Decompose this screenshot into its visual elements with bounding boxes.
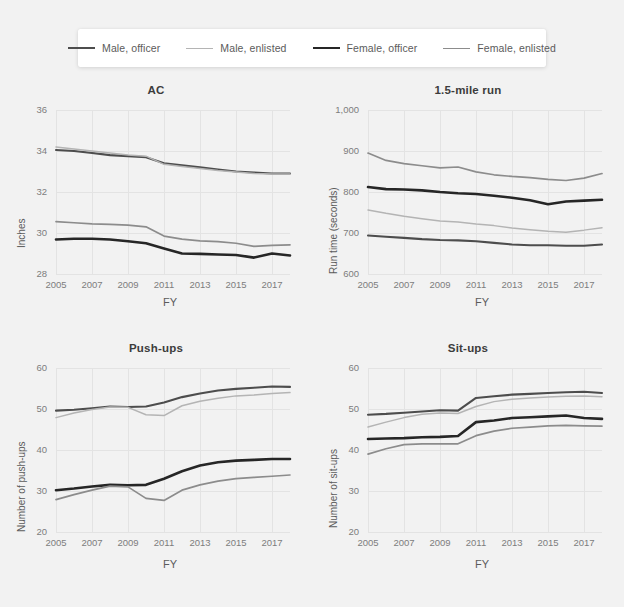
svg-text:50: 50 xyxy=(36,403,47,414)
svg-text:30: 30 xyxy=(348,485,359,496)
x-axis-label: FY xyxy=(326,296,624,308)
series-line xyxy=(56,150,290,174)
y-axis-label: Inches xyxy=(16,219,27,248)
legend-item-label: Male, officer xyxy=(102,42,160,54)
svg-text:2005: 2005 xyxy=(45,279,66,290)
chart-panel-pushups: Push-ups 2030405060200520072009201120132… xyxy=(0,336,312,600)
svg-text:32: 32 xyxy=(36,186,47,197)
series-line xyxy=(56,393,290,418)
svg-text:2013: 2013 xyxy=(501,537,522,548)
panel-title: 1.5-mile run xyxy=(312,84,624,96)
svg-text:2009: 2009 xyxy=(117,537,138,548)
x-axis-label: FY xyxy=(326,558,624,570)
legend-item-label: Male, enlisted xyxy=(220,42,286,54)
svg-text:2011: 2011 xyxy=(154,279,174,290)
svg-text:2005: 2005 xyxy=(357,279,378,290)
svg-text:2017: 2017 xyxy=(261,537,282,548)
svg-text:2007: 2007 xyxy=(393,537,414,548)
svg-text:20: 20 xyxy=(36,526,47,537)
series-line xyxy=(368,392,602,415)
svg-text:2015: 2015 xyxy=(225,279,246,290)
svg-text:900: 900 xyxy=(343,145,359,156)
svg-text:30: 30 xyxy=(36,227,47,238)
legend-line-swatch xyxy=(313,47,340,49)
svg-text:2007: 2007 xyxy=(81,537,102,548)
svg-text:2015: 2015 xyxy=(225,537,246,548)
series-line xyxy=(56,459,290,490)
svg-text:28: 28 xyxy=(36,268,47,279)
svg-text:2013: 2013 xyxy=(189,537,210,548)
svg-text:700: 700 xyxy=(343,227,359,238)
svg-text:50: 50 xyxy=(348,403,359,414)
svg-text:36: 36 xyxy=(36,104,47,115)
svg-text:2013: 2013 xyxy=(501,279,522,290)
svg-text:2015: 2015 xyxy=(537,537,558,548)
series-line xyxy=(368,210,602,232)
legend-line-swatch xyxy=(443,48,470,49)
plot-area-pushups: 20304050602005200720092011201320152017 xyxy=(0,358,312,558)
legend-item-male-enlisted: Male, enlisted xyxy=(186,42,286,54)
series-line xyxy=(56,222,290,247)
plot-area-ac: 28303234362005200720092011201320152017 xyxy=(0,100,312,300)
series-line xyxy=(368,187,602,204)
legend-item-label: Female, enlisted xyxy=(477,42,556,54)
svg-text:40: 40 xyxy=(348,444,359,455)
y-axis-label: Number of sit-ups xyxy=(328,449,339,528)
svg-text:2007: 2007 xyxy=(81,279,102,290)
chart-panel-run: 1.5-mile run 6007008009001,0002005200720… xyxy=(312,78,624,342)
svg-text:2017: 2017 xyxy=(573,279,594,290)
legend-line-swatch xyxy=(68,47,95,49)
svg-text:2005: 2005 xyxy=(357,537,378,548)
panel-title: AC xyxy=(0,84,312,96)
panel-title: Sit-ups xyxy=(312,342,624,354)
svg-text:600: 600 xyxy=(343,268,359,279)
svg-text:2011: 2011 xyxy=(466,279,486,290)
chart-panel-grid: AC 2830323436200520072009201120132015201… xyxy=(0,78,624,607)
plot-area-run: 6007008009001,00020052007200920112013201… xyxy=(312,100,624,300)
legend-item-male-officer: Male, officer xyxy=(68,42,160,54)
svg-text:20: 20 xyxy=(348,526,359,537)
svg-text:2017: 2017 xyxy=(573,537,594,548)
x-axis-label: FY xyxy=(14,296,326,308)
svg-text:2015: 2015 xyxy=(537,279,558,290)
svg-text:800: 800 xyxy=(343,186,359,197)
plot-area-situps: 20304050602005200720092011201320152017 xyxy=(312,358,624,558)
svg-text:2009: 2009 xyxy=(429,537,450,548)
svg-text:2011: 2011 xyxy=(466,537,486,548)
svg-text:60: 60 xyxy=(36,362,47,373)
svg-text:30: 30 xyxy=(36,485,47,496)
svg-text:2007: 2007 xyxy=(393,279,414,290)
svg-text:2017: 2017 xyxy=(261,279,282,290)
svg-text:60: 60 xyxy=(348,362,359,373)
svg-text:2009: 2009 xyxy=(117,279,138,290)
y-axis-label: Number of push-ups xyxy=(16,441,27,532)
svg-text:34: 34 xyxy=(36,145,47,156)
x-axis-label: FY xyxy=(14,558,326,570)
legend-item-label: Female, officer xyxy=(347,42,418,54)
series-line xyxy=(56,386,290,410)
svg-text:2005: 2005 xyxy=(45,537,66,548)
series-line xyxy=(368,416,602,439)
svg-text:2013: 2013 xyxy=(189,279,210,290)
series-line xyxy=(368,153,602,180)
panel-title: Push-ups xyxy=(0,342,312,354)
series-line xyxy=(368,235,602,245)
series-line xyxy=(56,239,290,258)
svg-text:40: 40 xyxy=(36,444,47,455)
svg-text:2009: 2009 xyxy=(429,279,450,290)
legend-item-female-enlisted: Female, enlisted xyxy=(443,42,556,54)
y-axis-label: Run time (seconds) xyxy=(328,187,339,274)
svg-text:1,000: 1,000 xyxy=(335,104,359,115)
svg-text:2011: 2011 xyxy=(154,537,174,548)
legend-line-swatch xyxy=(186,48,213,49)
chart-panel-ac: AC 2830323436200520072009201120132015201… xyxy=(0,78,312,342)
legend-item-female-officer: Female, officer xyxy=(313,42,418,54)
chart-legend: Male, officer Male, enlisted Female, off… xyxy=(78,29,546,67)
chart-panel-situps: Sit-ups 20304050602005200720092011201320… xyxy=(312,336,624,600)
